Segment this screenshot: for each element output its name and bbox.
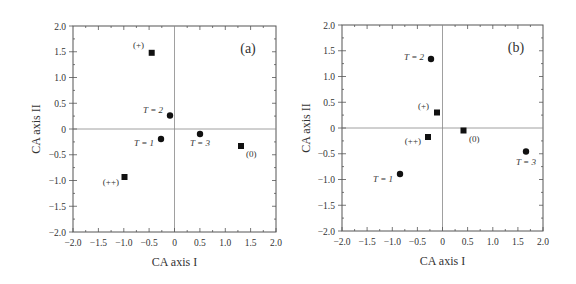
x-axis-title: CA axis I [420,254,465,268]
x-tick-labels: −2.0 −1.5 −1.0 −0.5 0 0.5 1.0 1.5 2.0 [64,238,282,248]
x-tick-label: −2.0 [333,237,350,247]
x-tick-label: 1.5 [245,238,257,248]
chart-a: 2.0 1.5 1.0 0.5 0 −0.5 −1.0 −1.5 −2.0 −2… [0,0,288,284]
panel-label: (a) [240,41,256,57]
point-label: T = 1 [373,174,393,184]
y-tick-label: 1.0 [54,73,66,83]
x-tick-label: 0.5 [194,238,206,248]
y-axis-title: CA axis II [299,103,313,152]
x-axis-title: CA axis I [152,255,197,269]
x-tick-label: −0.5 [409,237,426,247]
point-label: (+) [133,40,144,50]
square-marker-zero [461,128,467,134]
y-tick-labels: 2.0 1.5 1.0 0.5 0 −0.5 −1.0 −1.5 −2.0 [49,22,66,238]
x-tick-label: −2.0 [64,238,81,248]
chart-b: 2.0 1.5 1.0 0.5 0 −0.5 −1.0 −1.5 −2.0 −2… [288,0,576,284]
point-label: T = 2 [404,52,424,62]
x-tick-label: −0.5 [140,238,157,248]
y-tick-labels: 2.0 1.5 1.0 0.5 0 −0.5 −1.0 −1.5 −2.0 [318,21,335,237]
panel-label: (b) [508,40,525,56]
y-tick-label: 1.5 [54,47,66,57]
square-marker-plusplus [425,134,431,140]
y-tick-label: 0 [61,125,66,135]
square-marker-zero [238,143,244,149]
y-tick-label: −1.0 [318,175,335,185]
y-tick-label: −0.5 [318,149,335,159]
y-tick-label: 1.0 [323,72,335,82]
x-tick-label: 0 [172,238,177,248]
circle-marker-t2 [428,56,434,62]
y-tick-label: 0 [330,124,335,134]
circle-marker-t3 [523,148,529,154]
y-tick-label: −1.5 [49,202,66,212]
x-tick-label: 1.5 [512,237,524,247]
chart-b-svg: 2.0 1.5 1.0 0.5 0 −0.5 −1.0 −1.5 −2.0 −2… [288,0,576,284]
x-tick-label: 1.0 [487,237,499,247]
circle-marker-t1 [397,171,403,177]
point-label: (++) [405,136,421,146]
y-tick-label: 1.5 [323,46,335,56]
y-tick-label: −1.0 [49,176,66,186]
x-tick-label: 0 [440,237,445,247]
point-label: T = 2 [143,105,163,115]
circle-marker-t1 [158,136,164,142]
x-tick-label: 2.0 [537,237,549,247]
x-tick-label: −1.0 [384,237,401,247]
circle-marker-t3 [197,131,203,137]
chart-a-svg: 2.0 1.5 1.0 0.5 0 −0.5 −1.0 −1.5 −2.0 −2… [0,0,288,284]
x-tick-label: −1.0 [115,238,132,248]
y-tick-label: −0.5 [49,150,66,160]
x-tick-label: 2.0 [270,238,282,248]
point-label: T = 3 [190,138,210,148]
y-tick-label: 2.0 [54,22,66,32]
square-marker-plusplus [122,174,128,180]
x-tick-labels: −2.0 −1.5 −1.0 −0.5 0 0.5 1.0 1.5 2.0 [333,237,549,247]
square-marker-plus [149,50,155,56]
point-label: (++) [103,177,119,187]
y-tick-label: −1.5 [318,201,335,211]
point-label: (0) [246,149,257,159]
y-tick-label: 2.0 [323,21,335,31]
circle-marker-t2 [167,112,173,118]
y-tick-label: 0.5 [323,98,335,108]
y-tick-label: −2.0 [318,227,335,237]
square-marker-plus [434,110,440,116]
x-tick-label: −1.5 [90,238,107,248]
point-label: T = 3 [516,157,536,167]
x-tick-label: 1.0 [219,238,231,248]
x-tick-label: 0.5 [462,237,474,247]
x-tick-label: −1.5 [358,237,375,247]
y-tick-label: 0.5 [54,99,66,109]
point-label: (0) [469,134,480,144]
point-label: (+) [418,101,429,111]
y-axis-title: CA axis II [29,104,43,153]
point-label: T = 1 [134,138,154,148]
y-tick-label: −2.0 [49,228,66,238]
